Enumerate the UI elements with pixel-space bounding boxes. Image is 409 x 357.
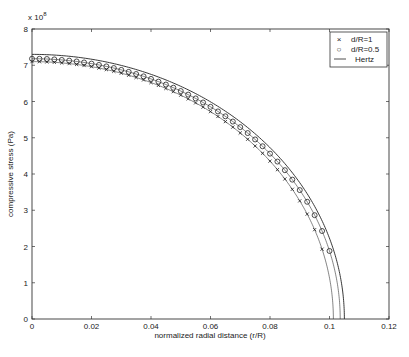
y-tick-label: 3 xyxy=(24,206,29,215)
x-tick-label: 0.06 xyxy=(203,322,219,331)
y-tick-label: 6 xyxy=(24,98,29,107)
circle-marker-icon: ○ xyxy=(337,45,342,54)
y-exponent: x 108 xyxy=(28,11,47,22)
legend-label: d/R=1 xyxy=(351,35,373,44)
y-tick-label: 1 xyxy=(24,279,29,288)
cross-marker-icon: × xyxy=(337,35,342,44)
x-tick-label: 0.12 xyxy=(381,322,397,331)
x-tick-label: 0.04 xyxy=(143,322,159,331)
y-tick-label: 8 xyxy=(24,25,29,34)
x-tick-label: 0.08 xyxy=(262,322,278,331)
y-tick-label: 5 xyxy=(24,134,29,143)
y-tick-label: 0 xyxy=(24,315,29,324)
y-tick-label: 7 xyxy=(24,61,29,70)
y-tick-label: 4 xyxy=(24,170,29,179)
cross-markers xyxy=(30,60,323,251)
y-tick-label: 2 xyxy=(24,243,29,252)
legend-label: Hertz xyxy=(355,55,374,64)
axes-box xyxy=(32,29,389,319)
x-axis-label: normalized radial distance (r/R) xyxy=(154,331,265,340)
y-axis-label: compressive stress (Pa) xyxy=(6,131,15,217)
stress-chart: 00.020.040.060.080.10.12012345678 x 108 … xyxy=(0,0,409,357)
legend: × d/R=1 ○ d/R=0.5 Hertz xyxy=(330,32,387,67)
plot-area xyxy=(30,54,345,319)
x-tick-label: 0.1 xyxy=(324,322,336,331)
x-tick-label: 0.02 xyxy=(84,322,100,331)
legend-label: d/R=0.5 xyxy=(351,45,380,54)
axes: 00.020.040.060.080.10.12012345678 xyxy=(24,25,398,331)
x-tick-label: 0 xyxy=(30,322,35,331)
